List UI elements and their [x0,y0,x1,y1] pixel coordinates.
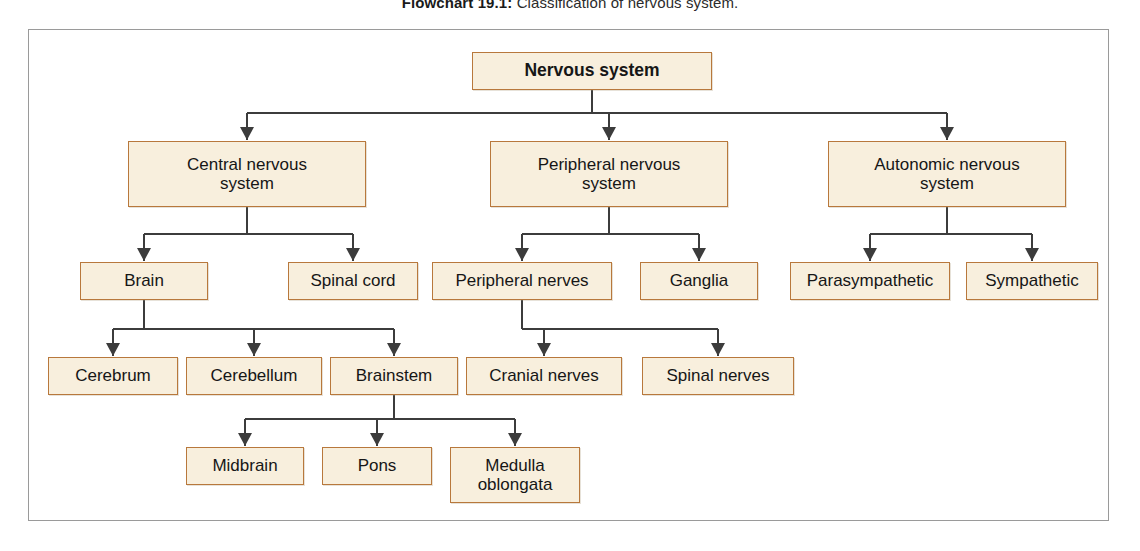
node-label-line: Nervous system [524,61,659,81]
node-label-line: system [538,174,681,193]
node-peripheral-nerves[interactable]: Peripheral nerves [432,262,612,300]
node-label: Cerebrum [75,366,151,385]
node-label-line: Autonomic nervous [874,155,1020,174]
node-label-line: oblongata [478,475,553,494]
node-cerebellum[interactable]: Cerebellum [186,357,322,395]
node-label: Spinal nerves [666,366,769,385]
node-label: Parasympathetic [807,271,934,290]
node-label-line: Medulla [478,456,553,475]
node-label-line: Spinal cord [310,271,395,290]
node-label: Autonomic nervoussystem [874,155,1020,193]
node-label: Cranial nerves [489,366,599,385]
node-label-line: Cerebrum [75,366,151,385]
node-label-line: Midbrain [212,456,277,475]
node-label-line: system [874,174,1020,193]
node-sympathetic[interactable]: Sympathetic [966,262,1098,300]
node-label: Brainstem [356,366,433,385]
node-label-line: Central nervous [187,155,307,174]
node-label: Ganglia [670,271,729,290]
node-pons[interactable]: Pons [322,447,432,485]
node-label-line: Spinal nerves [666,366,769,385]
node-autonomic-nervous-system[interactable]: Autonomic nervoussystem [828,141,1066,207]
node-label-line: Parasympathetic [807,271,934,290]
flowchart-canvas: Nervous systemCentral nervoussystemPerip… [0,0,1140,551]
node-label: Central nervoussystem [187,155,307,193]
node-label-line: Sympathetic [985,271,1079,290]
node-parasympathetic[interactable]: Parasympathetic [790,262,950,300]
node-label-line: Cranial nerves [489,366,599,385]
node-cranial-nerves[interactable]: Cranial nerves [466,357,622,395]
node-label-line: Peripheral nerves [455,271,588,290]
node-ganglia[interactable]: Ganglia [640,262,758,300]
node-label-line: Ganglia [670,271,729,290]
node-label-line: Brainstem [356,366,433,385]
node-nervous-system[interactable]: Nervous system [472,52,712,90]
node-midbrain[interactable]: Midbrain [186,447,304,485]
node-label: Brain [124,271,164,290]
node-label: Nervous system [524,61,659,81]
node-label-line: Cerebellum [211,366,298,385]
node-spinal-nerves[interactable]: Spinal nerves [642,357,794,395]
node-brainstem[interactable]: Brainstem [330,357,458,395]
node-label-line: Brain [124,271,164,290]
node-medulla-oblongata[interactable]: Medullaoblongata [450,447,580,503]
node-brain[interactable]: Brain [80,262,208,300]
node-cerebrum[interactable]: Cerebrum [48,357,178,395]
node-peripheral-nervous-system[interactable]: Peripheral nervoussystem [490,141,728,207]
node-label: Peripheral nervoussystem [538,155,681,193]
node-label-line: system [187,174,307,193]
node-label: Cerebellum [211,366,298,385]
node-label: Peripheral nerves [455,271,588,290]
node-label: Medullaoblongata [478,456,553,494]
node-label-line: Pons [358,456,397,475]
node-label-line: Peripheral nervous [538,155,681,174]
node-label: Sympathetic [985,271,1079,290]
node-label: Pons [358,456,397,475]
node-label: Midbrain [212,456,277,475]
node-label: Spinal cord [310,271,395,290]
node-spinal-cord[interactable]: Spinal cord [288,262,418,300]
node-central-nervous-system[interactable]: Central nervoussystem [128,141,366,207]
